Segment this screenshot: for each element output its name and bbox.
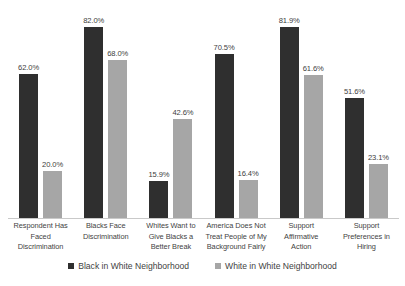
bar-value-label: 61.6%	[303, 64, 324, 73]
bar-value-label: 81.9%	[279, 16, 300, 25]
bar-item[interactable]: 81.9%	[280, 0, 299, 218]
bar-value-label: 15.9%	[148, 170, 169, 179]
legend-label: White in White Neighborhood	[225, 261, 337, 271]
bar-group: 51.6%23.1%	[334, 0, 399, 218]
plot-area: 62.0%20.0%82.0%68.0%15.9%42.6%70.5%16.4%…	[0, 0, 405, 219]
bar-value-label: 82.0%	[83, 16, 104, 25]
category-label: Whites Want to Give Blacks a Better Brea…	[138, 221, 203, 253]
bar-value-label: 16.4%	[238, 169, 259, 178]
bar-rect[interactable]	[173, 119, 192, 218]
bar-group: 70.5%16.4%	[204, 0, 269, 218]
bar-value-label: 70.5%	[214, 43, 235, 52]
bar-rect[interactable]	[215, 54, 234, 218]
bar-value-label: 42.6%	[172, 108, 193, 117]
bar-item[interactable]: 16.4%	[239, 0, 258, 218]
bar-value-label: 23.1%	[368, 153, 389, 162]
bar-rect[interactable]	[108, 60, 127, 218]
category-label: Support Preferences in Hiring	[334, 221, 399, 253]
bar-value-label: 68.0%	[107, 49, 128, 58]
bar-rect[interactable]	[43, 171, 62, 218]
bar-rect[interactable]	[345, 98, 364, 218]
bar-value-label: 20.0%	[42, 160, 63, 169]
bar-rect[interactable]	[369, 164, 388, 218]
bar-group: 81.9%61.6%	[269, 0, 334, 218]
bar-item[interactable]: 15.9%	[149, 0, 168, 218]
bar-rect[interactable]	[304, 75, 323, 218]
bar-item[interactable]: 70.5%	[215, 0, 234, 218]
x-axis-line	[8, 218, 399, 219]
bar-group: 62.0%20.0%	[8, 0, 73, 218]
bar-item[interactable]: 23.1%	[369, 0, 388, 218]
legend-label: Black in White Neighborhood	[78, 261, 189, 271]
category-axis-labels: Respondent Has Faced DiscriminationBlack…	[0, 221, 405, 257]
legend-item[interactable]: White in White Neighborhood	[215, 261, 337, 271]
bar-rect[interactable]	[239, 180, 258, 218]
bar-group-bars: 70.5%16.4%	[204, 0, 269, 218]
legend-item[interactable]: Black in White Neighborhood	[68, 261, 189, 271]
bar-group: 82.0%68.0%	[73, 0, 138, 218]
category-label: Respondent Has Faced Discrimination	[8, 221, 73, 253]
bar-item[interactable]: 62.0%	[19, 0, 38, 218]
bar-item[interactable]: 51.6%	[345, 0, 364, 218]
bar-group: 15.9%42.6%	[138, 0, 203, 218]
bar-rect[interactable]	[84, 27, 103, 218]
bar-item[interactable]: 61.6%	[304, 0, 323, 218]
bar-value-label: 51.6%	[344, 87, 365, 96]
category-label: Support Affirmative Action	[269, 221, 334, 253]
bar-item[interactable]: 82.0%	[84, 0, 103, 218]
legend-swatch-icon	[215, 263, 221, 269]
bar-group-bars: 51.6%23.1%	[334, 0, 399, 218]
bar-group-bars: 82.0%68.0%	[73, 0, 138, 218]
legend-swatch-icon	[68, 263, 74, 269]
bar-item[interactable]: 20.0%	[43, 0, 62, 218]
bar-item[interactable]: 42.6%	[173, 0, 192, 218]
bar-rect[interactable]	[19, 74, 38, 218]
category-label: Blacks Face Discrimination	[73, 221, 138, 242]
bar-group-bars: 81.9%61.6%	[269, 0, 334, 218]
bar-rect[interactable]	[149, 181, 168, 218]
bar-group-bars: 15.9%42.6%	[138, 0, 203, 218]
bar-rect[interactable]	[280, 27, 299, 218]
bar-group-bars: 62.0%20.0%	[8, 0, 73, 218]
bar-item[interactable]: 68.0%	[108, 0, 127, 218]
chart-legend: Black in White NeighborhoodWhite in Whit…	[0, 261, 405, 271]
category-label: America Does Not Treat People of My Back…	[204, 221, 269, 253]
bar-value-label: 62.0%	[18, 63, 39, 72]
bar-chart: 62.0%20.0%82.0%68.0%15.9%42.6%70.5%16.4%…	[0, 0, 405, 286]
